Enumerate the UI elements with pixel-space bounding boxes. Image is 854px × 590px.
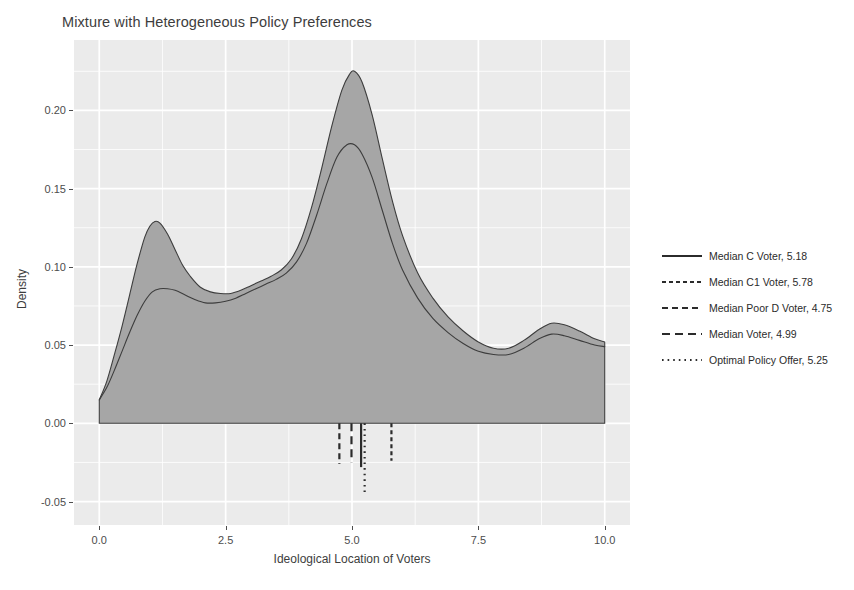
x-axis-tick-label: 10.0 [594,534,615,546]
y-axis-tick-label: 0.10 [45,261,66,273]
x-axis-tick-mark [478,526,479,530]
page-title: Mixture with Heterogeneous Policy Prefer… [62,14,372,30]
y-axis-tick-label: 0.15 [45,183,66,195]
plot-panel [74,40,630,525]
legend-key-solid-icon [660,243,704,269]
legend-item-label: Median C Voter, 5.18 [704,250,807,262]
density-chart-figure: Mixture with Heterogeneous Policy Prefer… [0,0,854,590]
legend-item[interactable]: Median C Voter, 5.18 [660,243,850,269]
y-axis-tick-mark [69,502,73,503]
legend-key-dashed-short-icon [660,269,704,295]
y-axis-tick-mark [69,110,73,111]
legend-item-label: Median C1 Voter, 5.78 [704,276,813,288]
plot-canvas [74,40,630,525]
legend: Median C Voter, 5.18Median C1 Voter, 5.7… [660,243,850,373]
y-axis-tick-mark [69,423,73,424]
x-axis-tick-label: 5.0 [344,534,359,546]
legend-item[interactable]: Median C1 Voter, 5.78 [660,269,850,295]
y-axis-tick-mark [69,267,73,268]
y-axis-tick-mark [69,345,73,346]
y-axis-tick-label: -0.05 [41,496,66,508]
x-axis-tick-mark [226,526,227,530]
legend-item-label: Median Voter, 4.99 [704,328,797,340]
y-axis-title: Density [15,249,29,329]
x-axis-tick-label: 7.5 [471,534,486,546]
vertical-rules-group [339,423,391,492]
y-axis-tick-label: 0.00 [45,417,66,429]
density-series-group [99,71,604,424]
legend-key-dotted-icon [660,347,704,373]
y-axis-tick-labels: -0.050.000.050.100.150.20 [0,0,66,590]
x-axis-tick-mark [99,526,100,530]
x-axis-tick-label: 0.0 [92,534,107,546]
y-axis-tick-label: 0.05 [45,339,66,351]
x-axis-tick-mark [605,526,606,530]
x-axis-tick-mark [352,526,353,530]
x-axis-title: Ideological Location of Voters [74,552,630,566]
x-axis-tick-label: 2.5 [218,534,233,546]
legend-key-dashed-medium-icon [660,295,704,321]
legend-item[interactable]: Median Poor D Voter, 4.75 [660,295,850,321]
legend-item[interactable]: Median Voter, 4.99 [660,321,850,347]
y-axis-tick-mark [69,189,73,190]
legend-item-label: Optimal Policy Offer, 5.25 [704,354,828,366]
legend-key-dashed-long-icon [660,321,704,347]
y-axis-tick-label: 0.20 [45,104,66,116]
density-area-0 [99,71,604,424]
legend-item[interactable]: Optimal Policy Offer, 5.25 [660,347,850,373]
legend-item-label: Median Poor D Voter, 4.75 [704,302,832,314]
